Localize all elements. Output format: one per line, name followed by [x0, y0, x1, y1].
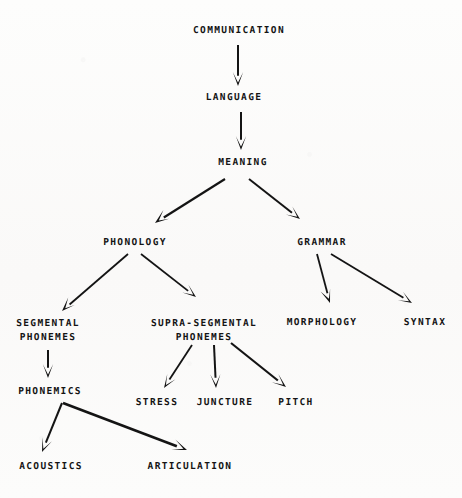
edge-shaft — [46, 403, 62, 443]
node-label: PHONEMICS — [18, 386, 82, 397]
node-label: COMMUNICATION — [193, 25, 285, 36]
edge-grammar-to-morphology — [317, 254, 330, 303]
edge-shaft — [317, 254, 327, 293]
node-label-line2: PHONEMES — [151, 330, 257, 344]
node-label: STRESS — [136, 397, 178, 408]
node-syntax: SYNTAX — [404, 316, 446, 330]
node-language: LANGUAGE — [206, 91, 263, 105]
edge-segmental-to-phonemics — [43, 350, 53, 378]
node-acoustics: ACOUSTICS — [19, 460, 83, 474]
node-juncture: JUNCTURE — [197, 396, 254, 410]
node-phonemics: PHONEMICS — [18, 385, 82, 399]
node-label: SUPRA-SEGMENTAL — [151, 318, 257, 329]
edge-shaft — [214, 345, 216, 378]
node-morphology: MORPHOLOGY — [287, 316, 358, 330]
edge-shaft — [141, 254, 188, 291]
edge-shaft — [231, 343, 278, 380]
edge-language-to-meaning — [236, 112, 246, 150]
node-supra-segmental-phonemes: SUPRA-SEGMENTALPHONEMES — [151, 317, 257, 344]
node-grammar: GRAMMAR — [297, 236, 347, 250]
edge-arrowhead — [62, 298, 75, 311]
edge-arrowhead — [182, 285, 196, 297]
edge-shaft — [164, 179, 225, 217]
node-stress: STRESS — [136, 396, 178, 410]
edge-shaft — [249, 179, 292, 213]
edge-phonology-to-segmental — [62, 254, 128, 311]
edge-supra-segmental-to-stress — [164, 345, 192, 388]
arrow-layer — [0, 0, 462, 498]
edge-arrowhead — [398, 292, 412, 303]
edge-phonemics-to-acoustics — [42, 403, 62, 452]
edge-arrowhead — [321, 289, 330, 303]
node-label: SYNTAX — [404, 317, 446, 328]
edge-shaft — [169, 345, 192, 380]
node-label: PHONOLOGY — [103, 237, 167, 248]
node-pitch: PITCH — [278, 396, 313, 410]
edge-arrowhead — [164, 374, 175, 388]
edge-meaning-to-grammar — [249, 179, 300, 219]
node-label: MORPHOLOGY — [287, 317, 358, 328]
edge-shaft — [331, 254, 403, 298]
node-segmental-phonemes: SEGMENTALPHONEMES — [16, 317, 80, 344]
node-label: PITCH — [278, 397, 313, 408]
edge-meaning-to-phonology — [155, 179, 225, 223]
node-label: LANGUAGE — [206, 92, 263, 103]
edge-phonology-to-supra-segmental — [141, 254, 196, 297]
node-label: JUNCTURE — [197, 397, 254, 408]
node-phonology: PHONOLOGY — [103, 236, 167, 250]
edge-shaft — [70, 254, 128, 304]
edge-supra-segmental-to-pitch — [231, 343, 286, 387]
node-communication: COMMUNICATION — [193, 24, 285, 38]
node-label: ARTICULATION — [148, 461, 233, 472]
edge-grammar-to-syntax — [331, 254, 412, 303]
diagram-canvas: COMMUNICATIONLANGUAGEMEANINGPHONOLOGYGRA… — [0, 0, 462, 498]
node-label: MEANING — [218, 157, 268, 168]
node-articulation: ARTICULATION — [148, 460, 233, 474]
edge-communication-to-language — [233, 45, 243, 86]
node-label: ACOUSTICS — [19, 461, 83, 472]
node-meaning: MEANING — [218, 156, 268, 170]
edge-supra-segmental-to-juncture — [210, 345, 220, 388]
edge-arrowhead — [286, 206, 300, 219]
node-label: SEGMENTAL — [16, 318, 80, 329]
node-label-line2: PHONEMES — [16, 330, 80, 344]
edge-phonemics-to-articulation — [63, 403, 187, 450]
node-label: GRAMMAR — [297, 237, 347, 248]
